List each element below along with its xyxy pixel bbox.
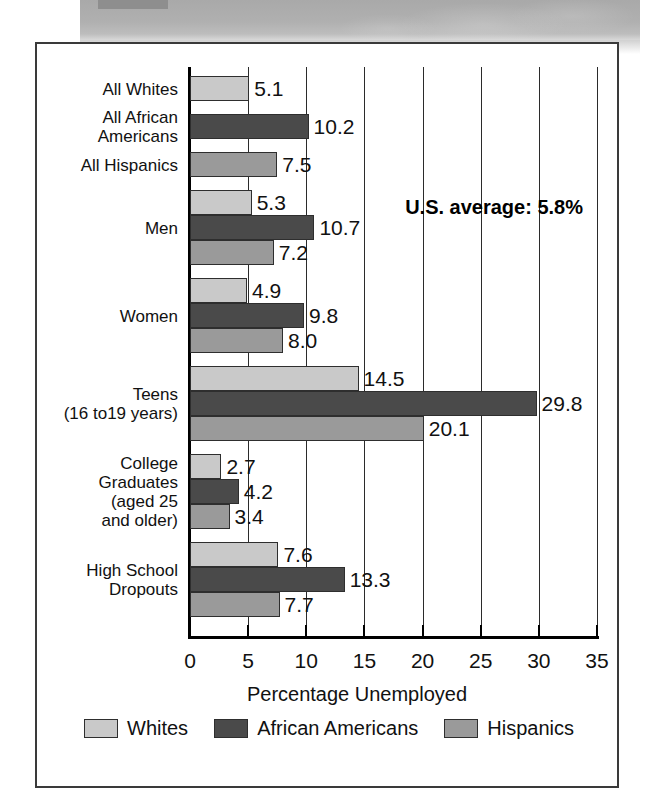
legend-label: Hispanics [487,718,574,738]
bar-chart-plot: 05101520253035 5.110.27.55.310.77.24.99.… [37,44,621,790]
bar-african-americans-1 [190,114,309,139]
us-average-annotation: U.S. average: 5.8% [405,196,583,219]
bar-value-label: 3.4 [235,506,264,527]
legend-item-african-americans[interactable]: African Americans [214,718,418,738]
x-tick-label-0: 0 [184,650,196,671]
x-tick-5 [247,625,249,636]
x-tick-0 [189,625,191,636]
x-tick-label-15: 15 [353,650,376,671]
bar-value-label: 20.1 [429,418,470,439]
bar-value-label: 7.7 [285,594,314,615]
bar-hispanics-4 [190,328,283,353]
chart-legend: WhitesAfrican AmericansHispanics [37,718,621,738]
x-tick-25 [480,625,482,636]
category-label-4: Women [18,306,178,325]
legend-label: Whites [127,718,188,738]
bar-whites-3 [190,190,252,215]
bar-value-label: 13.3 [350,569,391,590]
bar-value-label: 10.2 [314,116,355,137]
bar-hispanics-5 [190,416,424,441]
gridline-30 [539,67,540,636]
bar-value-label: 7.5 [282,154,311,175]
category-label-0: All Whites [18,79,178,98]
scan-banner [80,0,640,40]
legend-item-hispanics[interactable]: Hispanics [444,718,574,738]
x-tick-10 [305,625,307,636]
bar-value-label: 5.1 [254,78,283,99]
x-tick-label-30: 30 [527,650,550,671]
bar-whites-0 [190,76,249,101]
bar-hispanics-2 [190,152,277,177]
x-tick-label-25: 25 [469,650,492,671]
bar-whites-4 [190,278,247,303]
bar-african-americans-5 [190,391,537,416]
x-axis-title: Percentage Unemployed [97,683,617,706]
bar-value-label: 4.9 [252,280,281,301]
bar-african-americans-3 [190,215,314,240]
bar-african-americans-6 [190,479,239,504]
bar-value-label: 29.8 [542,393,583,414]
bar-value-label: 10.7 [319,217,360,238]
bar-hispanics-6 [190,504,230,529]
chart-frame: 05101520253035 5.110.27.55.310.77.24.99.… [35,42,619,788]
x-axis-line [188,636,599,639]
x-tick-label-10: 10 [295,650,318,671]
category-label-6: College Graduates (aged 25 and older) [18,454,178,530]
bar-african-americans-7 [190,567,345,592]
legend-swatch-icon [444,719,478,738]
bar-hispanics-3 [190,240,274,265]
category-label-5: Teens (16 to19 years) [18,385,178,423]
category-label-1: All African Americans [18,108,178,146]
legend-label: African Americans [257,718,418,738]
category-label-2: All Hispanics [18,155,178,174]
x-tick-label-20: 20 [411,650,434,671]
gridline-25 [481,67,482,636]
bar-whites-7 [190,542,278,567]
category-label-3: Men [18,218,178,237]
legend-item-whites[interactable]: Whites [84,718,188,738]
x-tick-20 [422,625,424,636]
legend-swatch-icon [214,719,248,738]
bar-value-label: 14.5 [364,368,405,389]
bar-african-americans-4 [190,303,304,328]
x-tick-30 [538,625,540,636]
gridline-35 [597,67,598,636]
bar-value-label: 7.6 [283,544,312,565]
bar-whites-5 [190,366,359,391]
bar-hispanics-7 [190,592,280,617]
bar-whites-6 [190,454,221,479]
bar-value-label: 5.3 [257,192,286,213]
gridline-15 [364,67,365,636]
category-label-7: High School Dropouts [18,561,178,599]
x-tick-35 [596,625,598,636]
bar-value-label: 4.2 [244,481,273,502]
x-tick-15 [363,625,365,636]
bar-value-label: 2.7 [226,456,255,477]
x-tick-label-35: 35 [585,650,608,671]
legend-swatch-icon [84,719,118,738]
x-tick-label-5: 5 [242,650,254,671]
bar-value-label: 9.8 [309,305,338,326]
bar-value-label: 8.0 [288,330,317,351]
scan-banner-texture [80,0,640,40]
bar-value-label: 7.2 [279,242,308,263]
gridline-20 [423,67,424,636]
